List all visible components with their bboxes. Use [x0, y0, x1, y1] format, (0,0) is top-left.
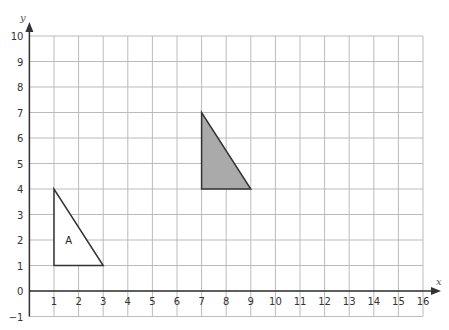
- x-tick-label: 2: [75, 296, 81, 307]
- x-tick-label: 7: [198, 296, 204, 307]
- y-tick-label: 6: [17, 133, 23, 144]
- coordinate-grid-chart: 12345678910111213141516−1012345678910 A …: [0, 0, 449, 330]
- x-tick-label: 12: [318, 296, 331, 307]
- x-tick-label: 13: [343, 296, 356, 307]
- x-tick-label: 15: [392, 296, 405, 307]
- x-tick-label: 8: [223, 296, 229, 307]
- y-tick-label: 8: [17, 82, 23, 93]
- y-axis-label: y: [19, 12, 26, 23]
- x-tick-label: 14: [367, 296, 380, 307]
- x-tick-label: 16: [417, 296, 430, 307]
- y-tick-label: 9: [17, 57, 23, 68]
- x-tick-label: 1: [51, 296, 57, 307]
- y-tick-label: 1: [17, 261, 23, 272]
- y-tick-label: −1: [9, 312, 24, 323]
- x-tick-label: 3: [100, 296, 106, 307]
- x-tick-label: 9: [248, 296, 254, 307]
- y-tick-label: 3: [17, 210, 23, 221]
- x-tick-label: 11: [294, 296, 307, 307]
- y-tick-label: 7: [17, 108, 23, 119]
- y-tick-label: 5: [17, 159, 23, 170]
- y-tick-label: 4: [17, 184, 23, 195]
- y-tick-label: 10: [11, 31, 24, 42]
- y-axis-arrow-icon: [25, 22, 33, 32]
- x-axis-arrow-icon: [431, 287, 441, 295]
- y-tick-label: 0: [17, 286, 23, 297]
- y-tick-label: 2: [17, 235, 23, 246]
- x-axis-label: x: [436, 276, 442, 287]
- x-tick-label: 4: [125, 296, 131, 307]
- x-tick-label: 5: [149, 296, 155, 307]
- triangle-a-label: A: [65, 235, 72, 246]
- x-tick-label: 10: [269, 296, 282, 307]
- x-tick-label: 6: [174, 296, 180, 307]
